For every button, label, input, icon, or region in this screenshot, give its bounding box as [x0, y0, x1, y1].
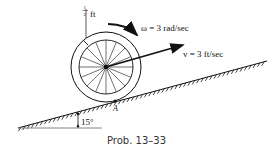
velocity-label: v = 3 ft/sec — [183, 49, 223, 59]
thickness-unit-label: ft — [90, 9, 96, 19]
diagram-canvas: 15° 1 2 ft ω = 3 rad/sec v = 3 ft/sec A … — [0, 0, 279, 153]
angular-velocity-label: ω = 3 rad/sec — [141, 23, 189, 33]
angle-label: 15° — [81, 117, 94, 127]
figure-caption: Prob. 13–33 — [107, 135, 166, 146]
contact-point-label: A — [112, 104, 118, 113]
contact-point-a — [113, 99, 116, 102]
incline-surface — [18, 61, 267, 131]
